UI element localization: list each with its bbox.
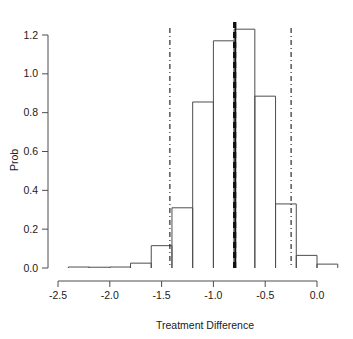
x-axis-title: Treatment Difference bbox=[156, 319, 254, 331]
x-tick-label: -1.5 bbox=[153, 289, 171, 301]
x-tick-label: -0.5 bbox=[256, 289, 274, 301]
x-tick-label: 0.0 bbox=[310, 289, 325, 301]
y-tick-label: 0.4 bbox=[23, 184, 38, 196]
y-tick-label: 0.8 bbox=[23, 106, 38, 118]
y-tick-label: 0.6 bbox=[23, 145, 38, 157]
x-tick-label: -2.5 bbox=[49, 289, 67, 301]
y-tick-label: 1.0 bbox=[23, 67, 38, 79]
x-tick-label: -1.0 bbox=[204, 289, 222, 301]
x-tick-label: -2.0 bbox=[101, 289, 119, 301]
y-tick-label: 0.2 bbox=[23, 223, 38, 235]
histogram-plot: 0.00.20.40.60.81.01.2 Prob -2.5-2.0-1.5-… bbox=[0, 0, 353, 339]
plot-canvas: 0.00.20.40.60.81.01.2 Prob -2.5-2.0-1.5-… bbox=[0, 0, 353, 339]
y-tick-label: 0.0 bbox=[23, 262, 38, 274]
y-tick-label: 1.2 bbox=[23, 29, 38, 41]
y-axis-title: Prob bbox=[8, 149, 20, 171]
